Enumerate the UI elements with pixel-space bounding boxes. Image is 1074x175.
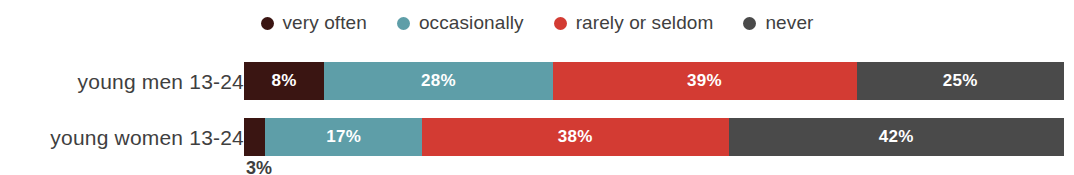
- bar-segment-value-never: 25%: [943, 71, 978, 91]
- bar-segment-rarely-or-seldom: 39%: [553, 62, 857, 100]
- bar-segment-occasionally: 28%: [324, 62, 552, 100]
- legend-item-very-often: very often: [261, 12, 367, 34]
- legend-dot-icon-occasionally: [397, 17, 410, 30]
- legend-item-occasionally: occasionally: [397, 12, 524, 34]
- bar-segment-very-often: 3%: [244, 118, 265, 156]
- legend-item-never: never: [743, 12, 813, 34]
- bar-segment-occasionally: 17%: [265, 118, 422, 156]
- table-row: young men 13-24 8% 28% 39% 25%: [0, 62, 1074, 102]
- category-label-young-men: young men 13-24: [78, 70, 244, 94]
- legend-label-never: never: [765, 12, 813, 34]
- legend-dot-icon-rarely-or-seldom: [554, 17, 567, 30]
- bar-segment-value-occasionally: 28%: [421, 71, 456, 91]
- bar-segment-value-rarely-or-seldom: 38%: [558, 127, 593, 147]
- stacked-bar-young-women: 3% 17% 38% 42%: [244, 118, 1064, 156]
- bar-segment-value-never: 42%: [879, 127, 914, 147]
- stacked-bar-chart: very often occasionally rarely or seldom…: [0, 0, 1074, 175]
- legend-item-rarely-or-seldom: rarely or seldom: [554, 12, 714, 34]
- bar-segment-value-occasionally: 17%: [326, 127, 361, 147]
- bar-segment-very-often: 8%: [244, 62, 324, 100]
- annotation-3-percent: 3%: [246, 158, 272, 175]
- bar-segment-never: 42%: [729, 118, 1064, 156]
- legend-dot-icon-very-often: [261, 17, 274, 30]
- table-row: young women 13-24 3% 17% 38% 42% 3%: [0, 118, 1074, 158]
- bar-segment-value-rarely-or-seldom: 39%: [687, 71, 722, 91]
- stacked-bar-young-men: 8% 28% 39% 25%: [244, 62, 1064, 100]
- bar-segment-never: 25%: [857, 62, 1064, 100]
- legend-dot-icon-never: [743, 17, 756, 30]
- bar-segment-rarely-or-seldom: 38%: [422, 118, 729, 156]
- legend-label-very-often: very often: [283, 12, 367, 34]
- legend-label-rarely-or-seldom: rarely or seldom: [576, 12, 714, 34]
- chart-legend: very often occasionally rarely or seldom…: [0, 8, 1074, 38]
- legend-label-occasionally: occasionally: [419, 12, 524, 34]
- category-label-young-women: young women 13-24: [50, 126, 244, 150]
- bar-segment-value-very-often: 8%: [272, 71, 297, 91]
